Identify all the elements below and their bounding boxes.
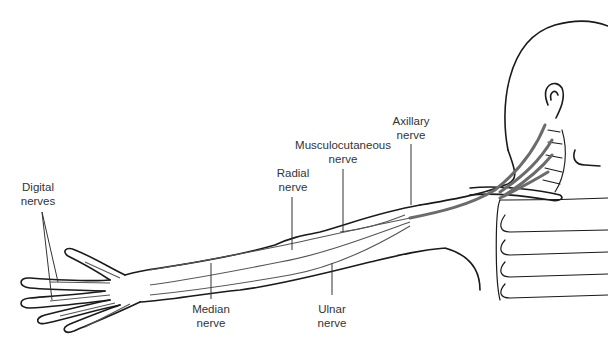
- label-digital-nerves: Digital nerves: [8, 180, 68, 208]
- median-nerve-path: [150, 222, 410, 285]
- label-line: nerve: [293, 152, 393, 166]
- ribcage: [496, 198, 608, 300]
- ear-outline: [546, 83, 564, 118]
- finger-outline: [21, 278, 110, 291]
- thumb-outline: [65, 249, 125, 280]
- label-line: nerves: [8, 194, 68, 208]
- label-radial-nerve: Radial nerve: [268, 166, 318, 194]
- nerve-diagram: Digital nerves Radial nerve Musculocutan…: [0, 0, 608, 341]
- label-median-nerve: Median nerve: [186, 302, 236, 330]
- label-line: nerve: [186, 316, 236, 330]
- label-line: Radial: [268, 166, 318, 180]
- arm-outline-top: [125, 205, 420, 275]
- arm-outline-bottom: [140, 248, 480, 302]
- label-line: Digital: [8, 180, 68, 194]
- label-musculocutaneous-nerve: Musculocutaneous nerve: [293, 138, 393, 166]
- label-axillary-nerve: Axillary nerve: [386, 114, 436, 142]
- head-outline: [505, 21, 608, 150]
- label-line: Median: [186, 302, 236, 316]
- label-line: nerve: [386, 128, 436, 142]
- label-line: nerve: [307, 316, 357, 330]
- label-line: Axillary: [386, 114, 436, 128]
- label-line: Ulnar: [307, 302, 357, 316]
- label-line: nerve: [268, 180, 318, 194]
- label-line: Musculocutaneous: [293, 138, 393, 152]
- label-ulnar-nerve: Ulnar nerve: [307, 302, 357, 330]
